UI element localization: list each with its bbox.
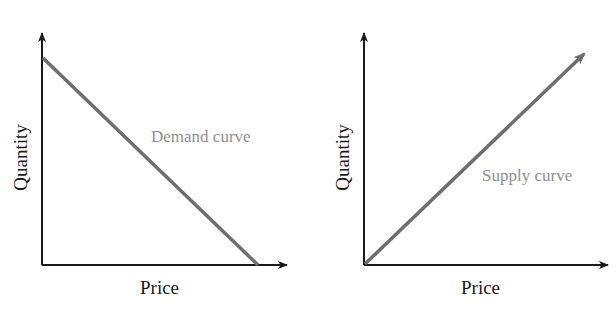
diagram-canvas <box>0 0 616 321</box>
supply-curve-label: Supply curve <box>482 167 572 184</box>
right-x-axis-label: Price <box>461 278 500 297</box>
left-chart-axes <box>42 33 287 265</box>
demand-curve-line <box>43 58 258 265</box>
left-x-axis-label: Price <box>140 278 179 297</box>
right-y-axis-label: Quantity <box>333 122 352 194</box>
supply-curve-line <box>365 54 584 264</box>
demand-curve-label: Demand curve <box>151 128 251 145</box>
left-y-axis-label: Quantity <box>11 122 30 194</box>
